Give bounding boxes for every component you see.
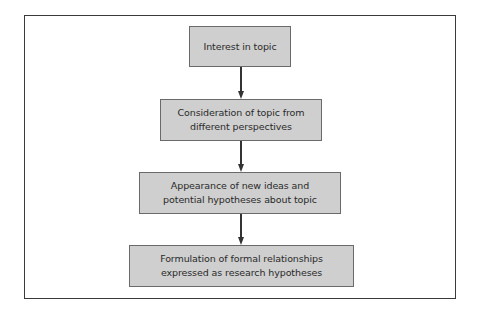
node-appearance-of-new-ideas: Appearance of new ideas and potential hy… <box>139 172 341 214</box>
arrow-3-to-4 <box>240 214 242 238</box>
node-interest-in-topic: Interest in topic <box>189 26 291 67</box>
node-consideration-of-topic: Consideration of topic from different pe… <box>160 99 322 141</box>
arrow-1-to-2 <box>240 67 242 92</box>
node-formulation-of-hypotheses: Formulation of formal relationships expr… <box>129 245 354 287</box>
arrow-2-to-3 <box>240 141 242 165</box>
arrowhead-icon <box>238 91 244 99</box>
arrowhead-icon <box>238 237 244 245</box>
node-label: Appearance of new ideas and potential hy… <box>163 179 317 207</box>
node-label: Consideration of topic from different pe… <box>178 106 305 134</box>
node-label: Interest in topic <box>203 40 276 54</box>
node-label: Formulation of formal relationships expr… <box>160 252 323 280</box>
arrowhead-icon <box>238 164 244 172</box>
